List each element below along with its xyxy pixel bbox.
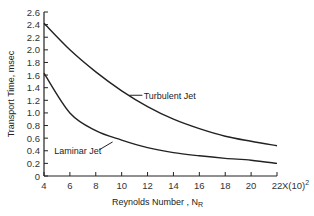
y-tick-label: 2.4 <box>27 19 40 30</box>
y-tick-label: 2.0 <box>27 44 40 55</box>
y-tick-label: 1.2 <box>27 95 40 106</box>
x-tick-label: 20 <box>246 180 257 191</box>
x-multiplier: X(10)2 <box>282 179 309 191</box>
y-tick-label: 0.4 <box>27 145 40 156</box>
x-tick-label: 16 <box>194 180 205 191</box>
x-tick-label: 14 <box>168 180 179 191</box>
y-tick-label: 1.4 <box>27 82 40 93</box>
x-tick-label: 22 <box>272 180 283 191</box>
y-tick-label: 1.8 <box>27 57 40 68</box>
x-tick-label: 8 <box>93 180 98 191</box>
x-tick-label: 4 <box>41 180 46 191</box>
y-tick-label: 0.8 <box>27 120 40 131</box>
x-tick-label: 12 <box>142 180 153 191</box>
series-line-turbulent <box>44 23 277 145</box>
chart: 00.20.40.60.81.01.21.41.61.82.02.22.42.6… <box>0 0 314 216</box>
y-tick-label: 1.0 <box>27 107 40 118</box>
x-tick-label: 10 <box>116 180 127 191</box>
y-tick-label: 2.2 <box>27 32 40 43</box>
x-tick-label: 6 <box>67 180 72 191</box>
y-tick-label: 0 <box>35 171 40 182</box>
y-tick-label: 0.2 <box>27 158 40 169</box>
y-axis-label: Transport Time, msec <box>6 50 16 137</box>
y-tick-label: 2.6 <box>27 7 40 18</box>
x-axis-label: Reynolds Number , NR <box>112 197 203 208</box>
y-tick-label: 0.6 <box>27 133 40 144</box>
y-tick-label: 1.6 <box>27 70 40 81</box>
annotation-turbulent-jet: Turbulent Jet <box>144 91 197 101</box>
labels: Transport Time, msec Reynolds Number , N… <box>6 50 309 208</box>
annotation-laminar-jet: Laminar Jet <box>54 146 102 156</box>
x-tick-label: 18 <box>220 180 231 191</box>
